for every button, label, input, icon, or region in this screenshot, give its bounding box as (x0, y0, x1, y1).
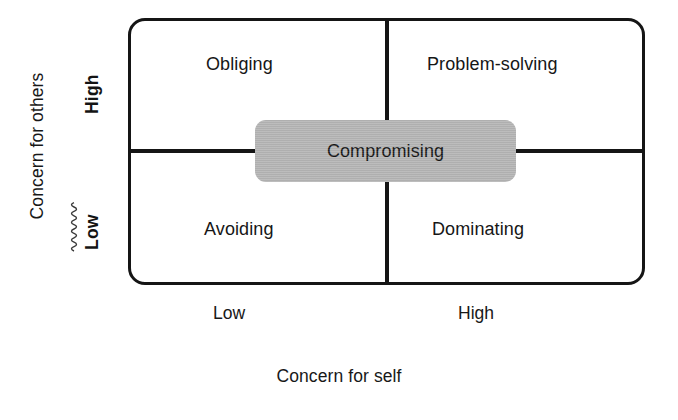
x-tick-high: High (458, 303, 494, 324)
quadrant-label-avoiding: Avoiding (204, 219, 274, 240)
y-axis-title: Concern for others (14, 0, 60, 296)
quadrant-label-problem-solving: Problem-solving (427, 54, 558, 75)
conflict-styles-matrix-figure: Concern for others High Low Obliging Pro… (0, 0, 678, 420)
y-tick-low-label: Low (82, 214, 102, 250)
y-tick-high: High (82, 74, 103, 114)
y-tick-high-label: High (82, 74, 102, 114)
quadrant-label-obliging: Obliging (206, 54, 273, 75)
x-tick-low: Low (213, 303, 245, 324)
quadrant-label-compromising: Compromising (327, 141, 444, 162)
squiggle-underline-icon (67, 198, 80, 252)
quadrant-label-dominating: Dominating (432, 219, 524, 240)
x-axis-title: Concern for self (0, 366, 678, 387)
y-tick-low: Low (82, 214, 103, 250)
compromising-box: Compromising (255, 120, 516, 182)
